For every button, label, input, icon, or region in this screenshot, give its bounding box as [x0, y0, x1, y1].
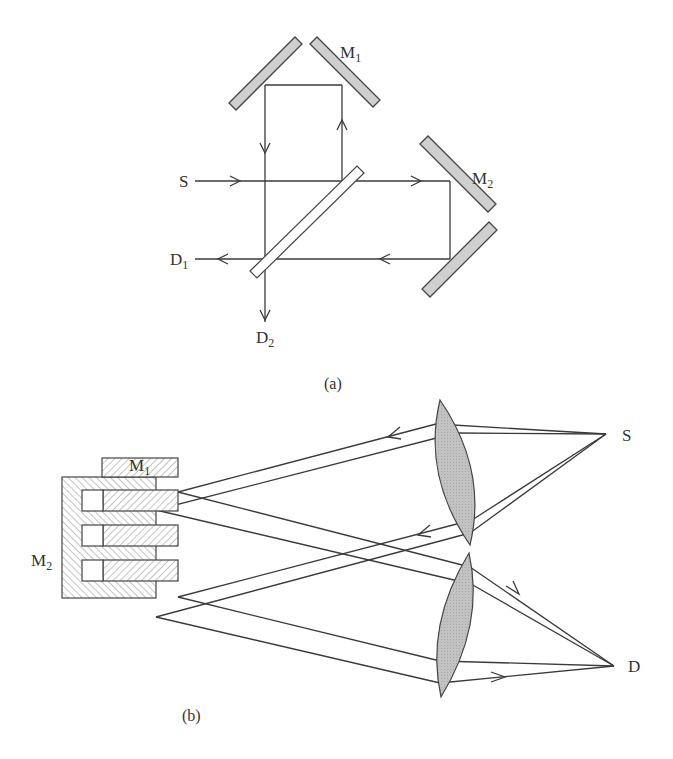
lower-lens [437, 553, 474, 697]
mirror-m2-b [62, 477, 178, 598]
caption-b: (b) [182, 707, 201, 725]
rays-b [156, 424, 614, 683]
panel-b: M1 M2 S D (b) [31, 400, 640, 725]
beam-splitter [250, 166, 364, 278]
mirror-m1-a [229, 37, 380, 110]
source-label-b: S [622, 426, 631, 445]
m1-label-a: M1 [340, 43, 361, 65]
m2-label-b: M2 [31, 551, 52, 573]
m2-label-a: M2 [472, 169, 493, 191]
d1-label-a: D1 [170, 250, 188, 272]
detector-label-b: D [628, 657, 640, 676]
upper-lens [435, 400, 475, 545]
caption-a: (a) [324, 375, 342, 393]
d2-label-a: D2 [256, 328, 274, 350]
mirror-m2-a [420, 136, 497, 297]
panel-a: S M1 M2 D1 D2 (a) [170, 37, 497, 393]
interferometer-diagram: S M1 M2 D1 D2 (a) [0, 0, 673, 759]
source-label-a: S [179, 172, 188, 191]
arrows-a [218, 120, 421, 320]
